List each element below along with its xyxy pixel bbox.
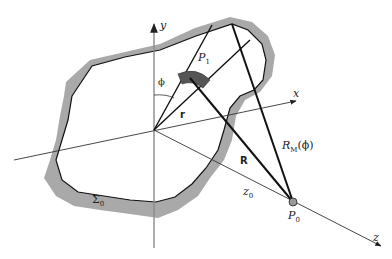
R-label: R: [240, 156, 248, 166]
p0-point: [289, 198, 297, 206]
diagram-svg: [0, 0, 392, 259]
y-axis-label: y: [160, 20, 166, 31]
r-label: r: [180, 110, 185, 120]
p0-label: P0: [288, 210, 300, 224]
x-axis-label: x: [293, 88, 299, 99]
z-axis-label: z: [373, 232, 379, 243]
diagram-canvas: y x z ϕ P1 r R RM(ϕ) z0 P0 Σ0: [0, 0, 392, 259]
z0-label: z0: [243, 186, 253, 200]
sigma0-label: Σ0: [92, 194, 104, 208]
phi-label: ϕ: [158, 77, 165, 87]
RM-label: RM(ϕ): [282, 140, 314, 154]
p1-label: P1: [198, 52, 210, 66]
